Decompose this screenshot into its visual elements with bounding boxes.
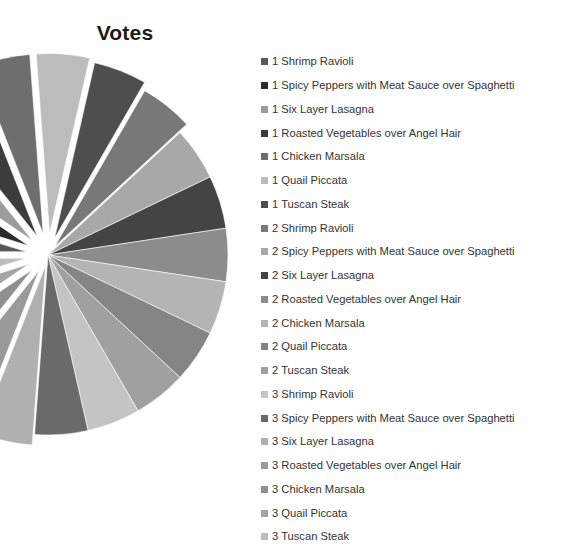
legend-label: 3 Roasted Vegetables over Angel Hair <box>272 460 461 471</box>
legend-label: 1 Shrimp Ravioli <box>272 56 353 67</box>
legend-swatch-icon <box>261 510 268 517</box>
legend-label: 1 Roasted Vegetables over Angel Hair <box>272 128 461 139</box>
legend-swatch-icon <box>261 486 268 493</box>
legend-label: 1 Tuscan Steak <box>272 199 349 210</box>
legend-label: 2 Quail Piccata <box>272 341 347 352</box>
legend-label: 1 Spicy Peppers with Meat Sauce over Spa… <box>272 80 515 91</box>
legend-label: 2 Chicken Marsala <box>272 318 365 329</box>
pie-chart-graphic <box>0 0 255 559</box>
legend-label: 3 Tuscan Steak <box>272 531 349 542</box>
legend-label: 3 Shrimp Ravioli <box>272 389 353 400</box>
legend-item[interactable]: 1 Roasted Vegetables over Angel Hair <box>261 121 573 145</box>
legend-item[interactable]: 2 Tuscan Steak <box>261 359 573 383</box>
legend-item[interactable]: 1 Chicken Marsala <box>261 145 573 169</box>
legend-label: 2 Six Layer Lasagna <box>272 270 374 281</box>
legend-item[interactable]: 2 Six Layer Lasagna <box>261 264 573 288</box>
legend-label: 2 Roasted Vegetables over Angel Hair <box>272 294 461 305</box>
legend-label: 2 Tuscan Steak <box>272 365 349 376</box>
legend-item[interactable]: 2 Shrimp Ravioli <box>261 216 573 240</box>
legend-item[interactable]: 1 Shrimp Ravioli <box>261 50 573 74</box>
legend-swatch-icon <box>261 106 268 113</box>
legend-item[interactable]: 2 Chicken Marsala <box>261 311 573 335</box>
legend-item[interactable]: 3 Chicken Marsala <box>261 478 573 502</box>
legend-swatch-icon <box>261 272 268 279</box>
legend-label: 1 Quail Piccata <box>272 175 347 186</box>
legend-label: 3 Six Layer Lasagna <box>272 436 374 447</box>
legend-label: 1 Chicken Marsala <box>272 151 365 162</box>
legend-label: 2 Spicy Peppers with Meat Sauce over Spa… <box>272 246 515 257</box>
legend-swatch-icon <box>261 58 268 65</box>
legend-item[interactable]: 1 Quail Piccata <box>261 169 573 193</box>
legend-swatch-icon <box>261 153 268 160</box>
legend-item[interactable]: 1 Tuscan Steak <box>261 193 573 217</box>
legend-swatch-icon <box>261 533 268 540</box>
legend-item[interactable]: 1 Spicy Peppers with Meat Sauce over Spa… <box>261 74 573 98</box>
legend-item[interactable]: 3 Shrimp Ravioli <box>261 383 573 407</box>
legend-swatch-icon <box>261 391 268 398</box>
legend-label: 3 Spicy Peppers with Meat Sauce over Spa… <box>272 413 515 424</box>
legend-item[interactable]: 1 Six Layer Lasagna <box>261 98 573 122</box>
legend-item[interactable]: 3 Tuscan Steak <box>261 525 573 549</box>
legend-swatch-icon <box>261 130 268 137</box>
legend-item[interactable]: 3 Spicy Peppers with Meat Sauce over Spa… <box>261 406 573 430</box>
legend-swatch-icon <box>261 438 268 445</box>
legend-label: 2 Shrimp Ravioli <box>272 223 353 234</box>
legend-item[interactable]: 2 Quail Piccata <box>261 335 573 359</box>
legend-swatch-icon <box>261 177 268 184</box>
legend-label: 1 Six Layer Lasagna <box>272 104 374 115</box>
legend-swatch-icon <box>261 248 268 255</box>
legend-swatch-icon <box>261 225 268 232</box>
legend-swatch-icon <box>261 462 268 469</box>
pie-chart-area: Votes <box>0 0 255 559</box>
legend-swatch-icon <box>261 82 268 89</box>
legend-label: 3 Quail Piccata <box>272 508 347 519</box>
legend-swatch-icon <box>261 367 268 374</box>
legend-item[interactable]: 2 Roasted Vegetables over Angel Hair <box>261 288 573 312</box>
legend-swatch-icon <box>261 296 268 303</box>
legend-swatch-icon <box>261 201 268 208</box>
legend-item[interactable]: 3 Six Layer Lasagna <box>261 430 573 454</box>
legend-item[interactable]: 3 Quail Piccata <box>261 501 573 525</box>
legend-swatch-icon <box>261 343 268 350</box>
pie-slice-group <box>0 53 228 445</box>
chart-legend: 1 Shrimp Ravioli1 Spicy Peppers with Mea… <box>261 50 573 549</box>
legend-item[interactable]: 3 Roasted Vegetables over Angel Hair <box>261 454 573 478</box>
legend-swatch-icon <box>261 320 268 327</box>
legend-swatch-icon <box>261 415 268 422</box>
legend-item[interactable]: 2 Spicy Peppers with Meat Sauce over Spa… <box>261 240 573 264</box>
legend-label: 3 Chicken Marsala <box>272 484 365 495</box>
